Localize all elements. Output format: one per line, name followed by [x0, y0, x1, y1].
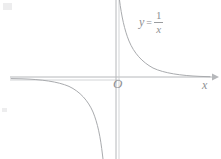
- reciprocal-function-figure: O x y = 1 x: [0, 0, 221, 159]
- origin-label: O: [113, 76, 122, 92]
- equation-relation: =: [145, 17, 153, 28]
- x-axis-arrowhead-icon: [212, 74, 219, 81]
- x-axis-label: x: [202, 78, 207, 93]
- equation-fraction: 1 x: [154, 10, 164, 35]
- fraction-denominator: x: [154, 23, 163, 35]
- figure-canvas: [0, 0, 221, 159]
- fraction-numerator: 1: [154, 10, 164, 22]
- hyperbola-branch-quadrant-3: [11, 79, 103, 159]
- hyperbola-branch-quadrant-1: [120, 0, 211, 77]
- equation-lhs: y: [139, 15, 144, 30]
- scan-artifact-left-edge: [2, 108, 7, 112]
- equation-label: y = 1 x: [139, 10, 163, 35]
- scan-artifact-top-left: [3, 3, 12, 10]
